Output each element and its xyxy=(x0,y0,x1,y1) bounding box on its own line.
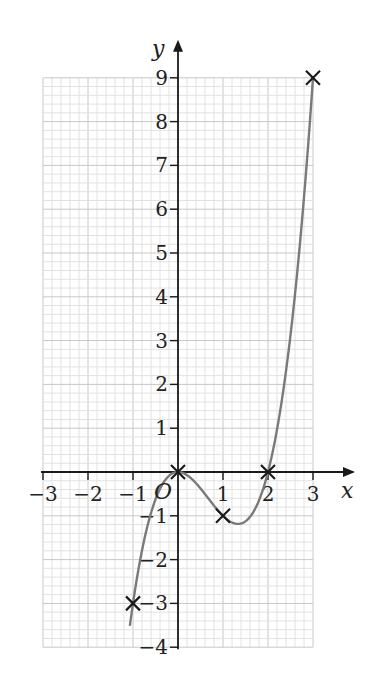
x-tick-label: −1 xyxy=(118,482,147,506)
y-tick-label: 2 xyxy=(155,372,168,396)
y-tick-label: −4 xyxy=(139,635,168,659)
y-tick-label: 1 xyxy=(155,416,168,440)
y-tick-label: 7 xyxy=(155,153,168,177)
y-tick-label: 9 xyxy=(155,66,168,90)
y-axis-label: y xyxy=(151,36,165,61)
y-tick-label: 3 xyxy=(155,329,168,353)
y-tick-label: 5 xyxy=(155,241,168,265)
cubic-graph: −3−2−1123−4−3−2−1123456789 x y O xyxy=(0,0,371,693)
x-tick-label: 3 xyxy=(307,482,320,506)
y-tick-label: 4 xyxy=(155,285,168,309)
y-tick-label: 6 xyxy=(155,197,168,221)
x-tick-label: 1 xyxy=(217,482,230,506)
x-axis-label: x xyxy=(341,478,354,503)
y-tick-label: 8 xyxy=(155,110,168,134)
tick-labels: −3−2−1123−4−3−2−1123456789 xyxy=(28,66,319,659)
y-tick-label: −3 xyxy=(139,591,168,615)
origin-label: O xyxy=(154,479,172,504)
x-tick-label: −2 xyxy=(73,482,102,506)
x-tick-label: −3 xyxy=(28,482,57,506)
